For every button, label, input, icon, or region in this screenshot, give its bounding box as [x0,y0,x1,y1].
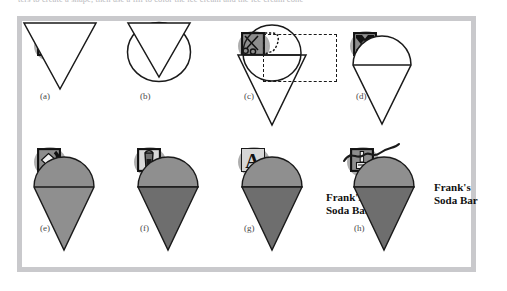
panel-f: (f) [126,141,236,271]
panel-h: (h) Frank's Soda Bar [342,141,472,271]
cropped-caption-text: ters to create a shape, then use a fill … [18,0,303,4]
panel-label-b: (b) [140,91,151,101]
brand-line-1: Frank's [434,181,478,194]
panel-a: (a) [22,21,132,141]
figure-frame: (a) (b) [17,16,476,272]
panel-e: (e) [22,141,132,271]
brand-line-2: Soda Bar [434,194,478,207]
panel-d: (d) [342,21,462,141]
cropped-caption-strip: ters to create a shape, then use a fill … [0,0,507,10]
panel-c: (c) [230,21,342,141]
panel-b: (b) [126,21,236,141]
panel-g: A (g) Frank's Soda Bar [230,141,350,271]
panel-label-a: (a) [40,91,50,101]
brand-text-h[interactable]: Frank's Soda Bar [434,181,478,206]
dashed-selection-box-c[interactable] [263,34,337,82]
